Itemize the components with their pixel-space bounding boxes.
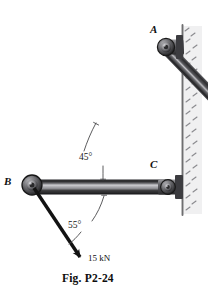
joint-label-a: A xyxy=(150,24,157,35)
joint-label-b: B xyxy=(4,176,11,187)
joint-b xyxy=(22,175,42,195)
angle-label-45: 45° xyxy=(79,153,92,163)
figure-container: A B C 45° 55° 15 kN Fig. P2-24 xyxy=(0,0,208,306)
joint-label-c: C xyxy=(150,159,157,170)
joint-c xyxy=(158,175,183,199)
load-label: 15 kN xyxy=(88,254,110,263)
angle-label-55: 55° xyxy=(68,221,81,231)
member-bc xyxy=(33,180,170,195)
wall xyxy=(183,25,203,215)
figure-caption: Fig. P2-24 xyxy=(62,272,114,284)
